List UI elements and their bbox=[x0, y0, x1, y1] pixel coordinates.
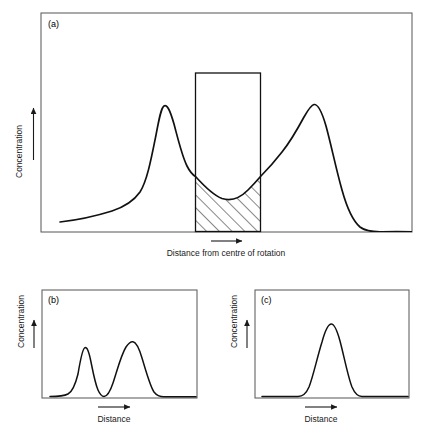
panel-b-label: (b) bbox=[48, 295, 59, 305]
panel-b-y-axis-label: Concentration bbox=[16, 295, 26, 348]
panel-c-curve-group bbox=[262, 324, 408, 397]
panel-a: (a) Concentration Distance from centre o… bbox=[14, 13, 412, 258]
panel-b: (b) Concentration Distance bbox=[16, 290, 197, 424]
panel-c-y-axis-label: Concentration bbox=[229, 295, 239, 348]
panel-c-label: (c) bbox=[261, 295, 272, 305]
panel-c-frame bbox=[255, 290, 409, 398]
panel-c-single-peak-curve bbox=[262, 324, 408, 397]
panel-a-hatched-region bbox=[196, 177, 261, 232]
three-panel-sedimentation-figure: (a) Concentration Distance from centre o… bbox=[0, 0, 426, 443]
panel-b-curve-group bbox=[50, 342, 196, 397]
panel-b-two-peak-curve bbox=[50, 342, 196, 397]
panel-a-x-axis-label: Distance from centre of rotation bbox=[167, 248, 286, 258]
panel-b-x-axis-label: Distance bbox=[97, 414, 130, 424]
collected-fraction-hatch bbox=[196, 177, 261, 232]
panel-b-frame bbox=[42, 290, 197, 398]
panel-a-label: (a) bbox=[48, 19, 59, 29]
figure-container: (a) Concentration Distance from centre o… bbox=[0, 0, 426, 443]
panel-a-y-axis-label: Concentration bbox=[14, 125, 24, 178]
panel-c: (c) Concentration Distance bbox=[229, 290, 409, 424]
panel-c-x-axis-label: Distance bbox=[304, 414, 337, 424]
